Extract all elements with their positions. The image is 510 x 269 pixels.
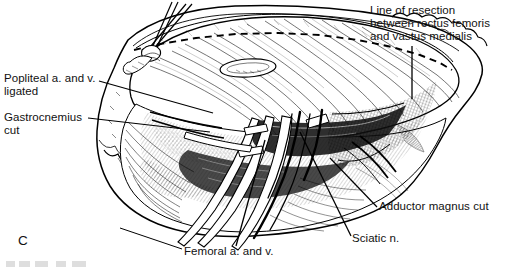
figure-page: Popliteal a. and v. ligated Gastrocnemiu…: [0, 0, 510, 269]
label-adductor-magnus-cut: Adductor magnus cut: [379, 200, 489, 213]
label-popliteal-vessels: Popliteal a. and v. ligated: [4, 72, 96, 98]
label-femoral-vessels: Femoral a. and v.: [184, 245, 273, 258]
figure-letter: C: [18, 233, 28, 248]
label-gastrocnemius-cut: Gastrocnemius cut: [4, 111, 82, 137]
label-line-of-resection: Line of resection between rectus femoris…: [370, 4, 490, 43]
label-sciatic-nerve: Sciatic n.: [352, 232, 399, 245]
cropped-caption-artifact: [6, 261, 126, 267]
leader-femoral-left: [120, 228, 182, 249]
